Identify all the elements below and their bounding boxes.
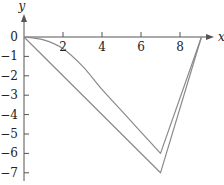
y-tick-label: −3 <box>0 88 18 102</box>
x-axis-arrow-icon <box>206 34 214 40</box>
series-group <box>24 37 201 173</box>
upper-curve <box>24 37 201 153</box>
axes <box>21 14 214 181</box>
lower-curve <box>24 37 201 173</box>
axis-labels: 24680−1−2−3−4−5−6−7xy <box>0 0 224 180</box>
x-tick-label: 6 <box>137 40 145 54</box>
x-axis-label: x <box>218 30 224 44</box>
y-tick-label: −1 <box>0 49 18 63</box>
y-axis-label: y <box>18 0 26 13</box>
y-tick-label: −4 <box>0 108 18 122</box>
x-tick-label: 4 <box>98 40 106 54</box>
y-tick-label: −5 <box>0 127 18 141</box>
chart: 24680−1−2−3−4−5−6−7xy <box>0 0 224 185</box>
y-axis-arrow-icon <box>21 14 27 22</box>
y-tick-label: −2 <box>0 69 18 83</box>
y-tick-label: −6 <box>0 146 18 160</box>
x-tick-label: 2 <box>59 40 67 54</box>
y-tick-label: 0 <box>10 30 18 44</box>
x-tick-label: 8 <box>176 40 184 54</box>
y-tick-label: −7 <box>0 166 18 180</box>
